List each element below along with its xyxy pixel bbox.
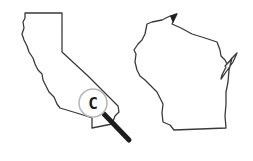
state-comparison-illustration: C [0, 0, 253, 161]
magnifier-letter: C [88, 94, 98, 113]
magnifier-handle [104, 114, 129, 140]
magnifier-icon: C [79, 89, 129, 140]
wisconsin-outline [134, 14, 237, 130]
